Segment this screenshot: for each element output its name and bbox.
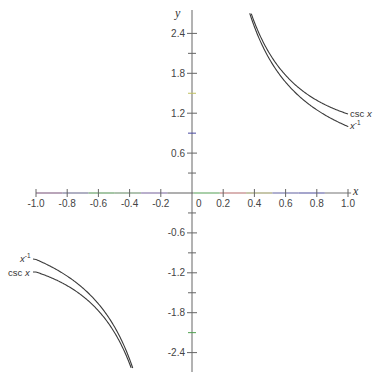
curve-label-csc-left: csc x — [8, 267, 31, 278]
x-tick-label: -1.0 — [27, 198, 45, 209]
x-tick-label: 0 — [196, 198, 202, 209]
curve-inverse-negative — [36, 260, 133, 369]
x-tick-label: -0.4 — [121, 198, 139, 209]
curve-label-csc-right: csc x — [350, 108, 373, 119]
y-tick-label: 0.6 — [171, 148, 185, 159]
y-axis-label: y — [174, 6, 181, 20]
x-tick-label: -0.6 — [90, 198, 108, 209]
curve-inverse-positive — [250, 13, 348, 126]
y-tick-label: -0.6 — [168, 227, 186, 238]
curve-csc-positive — [251, 14, 348, 114]
curve-csc-negative — [36, 272, 131, 368]
label-leader — [33, 259, 36, 260]
curve-label-inverse-right: x-1 — [349, 119, 361, 131]
x-tick-label: -0.2 — [152, 198, 170, 209]
y-tick-label: -1.2 — [168, 267, 186, 278]
y-tick-label: 1.2 — [171, 108, 185, 119]
x-tick-label: 1.0 — [341, 198, 355, 209]
x-axis-label: x — [352, 184, 359, 198]
function-plot: -1.0-0.8-0.6-0.4-0.200.20.40.60.81.0 2.4… — [0, 0, 379, 377]
x-tick-label: 0.6 — [279, 198, 293, 209]
x-tick-label: 0.8 — [310, 198, 324, 209]
x-tick-label: 0.4 — [247, 198, 261, 209]
y-tick-label: -1.8 — [168, 307, 186, 318]
y-tick-label: 2.4 — [171, 28, 185, 39]
curve-label-inverse-left: x-1 — [19, 252, 31, 264]
x-tick-label: -0.8 — [59, 198, 77, 209]
curves — [33, 13, 348, 368]
y-tick-label: -2.4 — [168, 347, 186, 358]
x-tick-label: 0.2 — [216, 198, 230, 209]
x-axis-ticks: -1.0-0.8-0.6-0.4-0.200.20.40.60.81.0 — [27, 189, 355, 209]
y-tick-label: 1.8 — [171, 68, 185, 79]
